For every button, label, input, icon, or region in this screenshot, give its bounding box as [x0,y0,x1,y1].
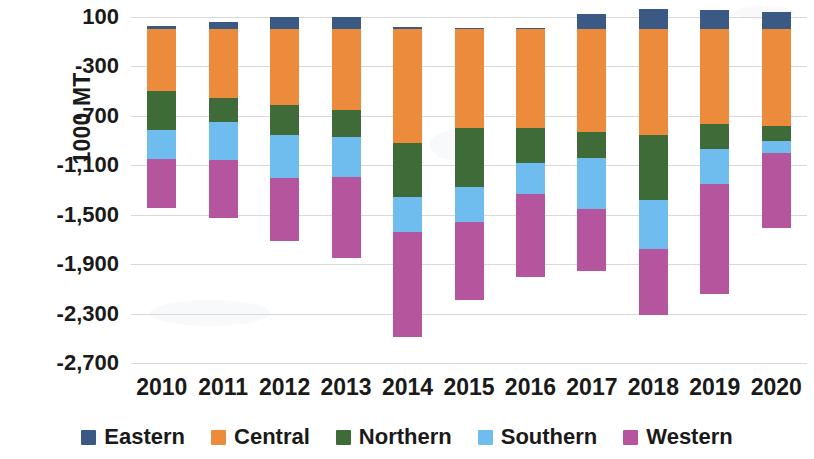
bar-segment-central [455,29,484,128]
bar-segment-eastern [762,12,791,29]
x-tick-label-2012: 2012 [259,374,310,401]
bar-segment-western [762,153,791,228]
bar-segment-central [516,29,545,128]
bar-segment-western [516,194,545,277]
x-tick-label-2018: 2018 [628,374,679,401]
bar-2015 [455,28,484,300]
bar-segment-central [270,29,299,105]
x-tick-label-2015: 2015 [443,374,494,401]
bar-segment-northern [209,98,238,123]
bar-segment-northern [700,124,729,149]
bar-segment-central [147,29,176,90]
bar-segment-central [700,29,729,124]
bar-segment-central [393,29,422,143]
legend-swatch-icon [336,430,351,445]
bar-2012 [270,17,299,240]
bar-segment-western [700,184,729,295]
legend-item-eastern[interactable]: Eastern [81,424,185,450]
gridline: -2,300 [131,314,807,315]
stacked-bar-chart: 1000 MT 100-300-700-1,100-1,500-1,900-2,… [0,0,814,459]
bar-segment-central [762,29,791,126]
legend-swatch-icon [478,430,493,445]
legend-item-western[interactable]: Western [623,424,732,450]
bar-segment-eastern [639,9,668,29]
x-tick-label-2010: 2010 [136,374,187,401]
x-tick-label-2011: 2011 [198,374,248,401]
x-tick-label-2020: 2020 [751,374,802,401]
bar-segment-northern [762,126,791,141]
bar-segment-western [455,222,484,300]
legend-label: Eastern [104,424,185,450]
bar-segment-northern [577,132,606,158]
bar-segment-southern [209,122,238,160]
x-tick-label-2016: 2016 [505,374,556,401]
bar-segment-eastern [270,17,299,29]
bar-segment-southern [700,149,729,184]
gridline: -2,700 [131,363,807,364]
x-tick-label-2014: 2014 [382,374,433,401]
bar-segment-southern [270,135,299,178]
legend-swatch-icon [623,430,638,445]
bar-segment-southern [516,163,545,195]
y-tick-label: -1,100 [57,152,119,178]
y-tick-label: -300 [75,53,119,79]
bar-segment-western [209,160,238,218]
x-tick-label-2013: 2013 [320,374,371,401]
bar-segment-central [332,29,361,110]
bar-segment-northern [639,135,668,200]
bar-2014 [393,27,422,337]
bar-2013 [332,17,361,257]
legend-label: Central [234,424,310,450]
bar-2020 [762,12,791,228]
bar-segment-northern [147,91,176,131]
legend-item-central[interactable]: Central [211,424,310,450]
bar-segment-western [270,178,299,241]
bar-segment-western [639,249,668,315]
bar-segment-northern [455,128,484,187]
bar-segment-eastern [332,17,361,29]
y-tick-label: -700 [75,103,119,129]
bar-segment-western [332,177,361,258]
bar-2017 [577,14,606,271]
bar-2016 [516,28,545,277]
legend-label: Southern [501,424,598,450]
bar-segment-western [393,232,422,337]
legend-label: Western [646,424,732,450]
bar-segment-eastern [209,22,238,29]
x-tick-label-2019: 2019 [689,374,740,401]
bar-2019 [700,10,729,294]
y-tick-label: -2,700 [57,350,119,376]
legend-swatch-icon [211,430,226,445]
legend-swatch-icon [81,430,96,445]
y-tick-label: -1,500 [57,202,119,228]
legend-item-southern[interactable]: Southern [478,424,598,450]
bar-segment-northern [516,128,545,163]
bar-segment-northern [270,105,299,135]
bar-segment-southern [332,137,361,177]
bar-segment-southern [577,158,606,209]
y-tick-label: -2,300 [57,301,119,327]
bar-segment-southern [147,130,176,159]
bar-segment-southern [455,187,484,222]
bar-2010 [147,26,176,208]
bar-segment-northern [393,143,422,197]
y-tick-label: -1,900 [57,251,119,277]
bar-segment-eastern [577,14,606,29]
bar-segment-western [577,209,606,270]
legend-item-northern[interactable]: Northern [336,424,452,450]
x-tick-label-2017: 2017 [566,374,617,401]
chart-legend: EasternCentralNorthernSouthernWestern [0,424,814,450]
bar-segment-northern [332,110,361,137]
bar-segment-southern [639,200,668,248]
bar-segment-central [639,29,668,135]
bar-segment-central [577,29,606,132]
bar-segment-western [147,159,176,208]
bar-segment-southern [393,197,422,232]
bar-segment-eastern [700,10,729,29]
bar-segment-southern [762,141,791,153]
bar-2011 [209,22,238,218]
y-tick-label: 100 [82,4,119,30]
x-axis-labels: 2010201120122013201420152016201720182019… [131,374,807,410]
bar-segment-central [209,29,238,97]
plot-area: 100-300-700-1,100-1,500-1,900-2,300-2,70… [131,0,807,370]
